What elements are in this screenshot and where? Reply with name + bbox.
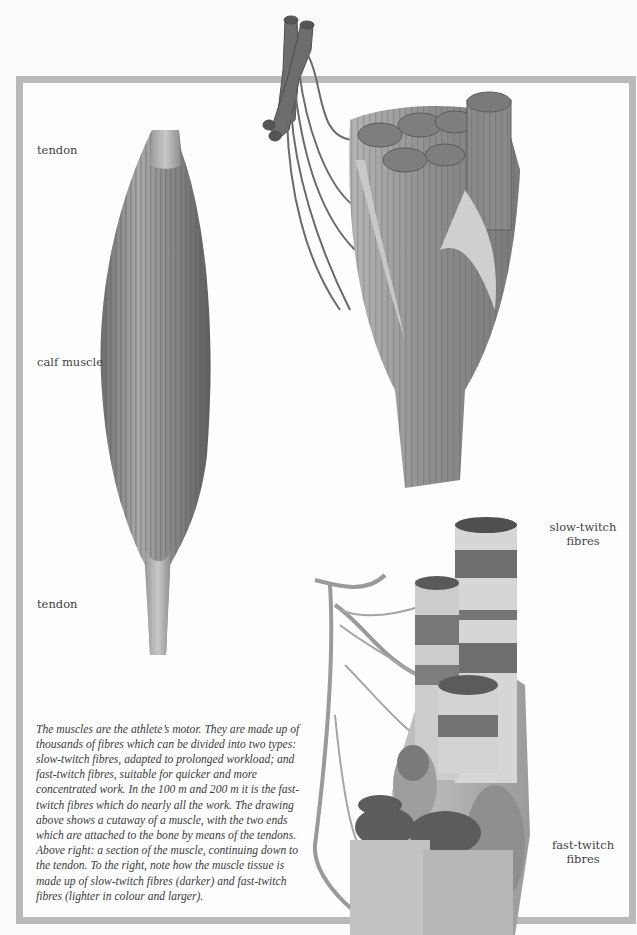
label-fast-twitch-fibres: fast-twitch fibres bbox=[543, 838, 623, 866]
fibre-section-illustration bbox=[305, 515, 555, 935]
muscle-cutaway-illustration bbox=[255, 10, 535, 490]
figure-caption: The muscles are the athlete’s motor. The… bbox=[36, 722, 311, 904]
label-tendon-top: tendon bbox=[37, 143, 78, 157]
label-tendon-bottom: tendon bbox=[37, 597, 78, 611]
label-calf-muscle: calf muscle bbox=[37, 355, 103, 369]
calf-muscle-illustration bbox=[95, 125, 215, 665]
label-slow-twitch-fibres: slow-twitch fibres bbox=[543, 520, 623, 548]
